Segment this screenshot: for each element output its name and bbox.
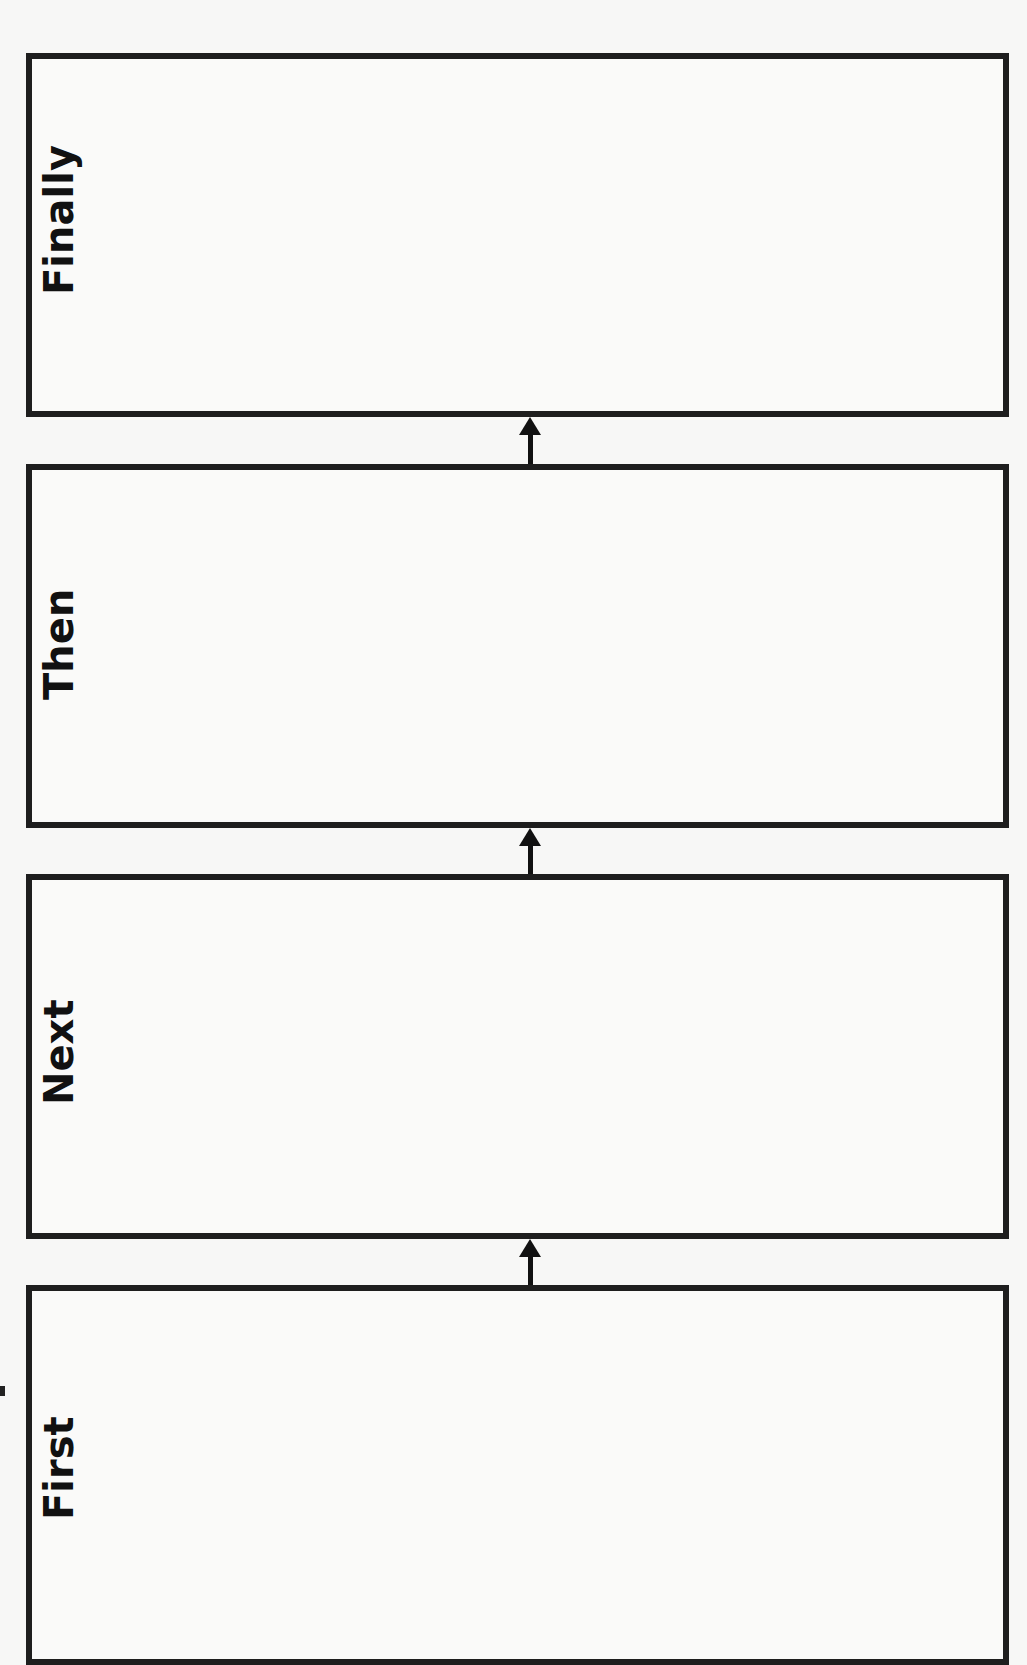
sequence-box-finally[interactable] — [26, 53, 1009, 417]
box-label-finally: Finally — [36, 145, 82, 295]
margin-mark — [0, 1386, 5, 1396]
box-label-next: Next — [36, 999, 82, 1105]
box-label-then: Then — [36, 589, 82, 700]
arrow-up-icon — [519, 828, 541, 874]
sequence-box-then[interactable] — [26, 464, 1009, 828]
sequence-box-next[interactable] — [26, 874, 1009, 1239]
arrow-up-icon — [519, 1239, 541, 1285]
arrow-up-icon — [519, 417, 541, 464]
box-label-first: First — [36, 1416, 82, 1520]
sequence-box-first[interactable] — [26, 1285, 1009, 1665]
